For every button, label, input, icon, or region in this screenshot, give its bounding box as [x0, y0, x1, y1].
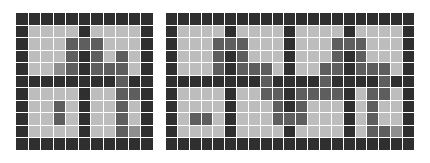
grid-cell-wall[interactable]: [379, 138, 390, 150]
grid-cell-wall[interactable]: [225, 26, 236, 38]
grid-cell-wall[interactable]: [190, 76, 201, 88]
grid-cell-wall[interactable]: [190, 13, 201, 25]
grid-cell-wall[interactable]: [296, 76, 307, 88]
grid-cell-wall[interactable]: [166, 38, 177, 50]
grid-cell-path[interactable]: [367, 113, 378, 125]
grid-cell-floor[interactable]: [391, 113, 402, 125]
grid-cell-wall[interactable]: [202, 138, 213, 150]
grid-cell-floor[interactable]: [104, 101, 116, 113]
grid-cell-floor[interactable]: [116, 26, 128, 38]
grid-cell-floor[interactable]: [202, 101, 213, 113]
grid-cell-wall[interactable]: [403, 101, 414, 113]
grid-cell-floor[interactable]: [261, 113, 272, 125]
grid-cell-wall[interactable]: [225, 126, 236, 138]
grid-cell-wall[interactable]: [16, 26, 28, 38]
grid-cell-floor[interactable]: [249, 101, 260, 113]
grid-cell-floor[interactable]: [379, 101, 390, 113]
grid-cell-floor[interactable]: [202, 26, 213, 38]
grid-cell-wall[interactable]: [273, 13, 284, 25]
grid-cell-floor[interactable]: [367, 38, 378, 50]
grid-cell-wall[interactable]: [29, 138, 41, 150]
grid-cell-wall[interactable]: [344, 126, 355, 138]
grid-cell-wall[interactable]: [79, 88, 91, 100]
grid-cell-path[interactable]: [356, 63, 367, 75]
grid-cell-floor[interactable]: [213, 101, 224, 113]
grid-cell-floor[interactable]: [202, 63, 213, 75]
grid-cell-wall[interactable]: [249, 76, 260, 88]
grid-cell-path[interactable]: [116, 51, 128, 63]
grid-cell-wall[interactable]: [141, 126, 153, 138]
grid-cell-wall[interactable]: [129, 138, 141, 150]
grid-cell-wall[interactable]: [273, 138, 284, 150]
grid-cell-floor[interactable]: [261, 51, 272, 63]
grid-cell-wall[interactable]: [261, 13, 272, 25]
grid-cell-wall[interactable]: [178, 13, 189, 25]
grid-cell-wall[interactable]: [66, 13, 78, 25]
grid-cell-wall[interactable]: [367, 13, 378, 25]
grid-cell-wall[interactable]: [344, 113, 355, 125]
grid-cell-floor[interactable]: [41, 113, 53, 125]
grid-cell-path[interactable]: [332, 38, 343, 50]
grid-cell-floor[interactable]: [190, 88, 201, 100]
grid-cell-wall[interactable]: [202, 13, 213, 25]
grid-cell-wall[interactable]: [344, 51, 355, 63]
grid-cell-floor[interactable]: [391, 38, 402, 50]
grid-cell-wall[interactable]: [225, 138, 236, 150]
grid-cell-wall[interactable]: [104, 76, 116, 88]
grid-cell-wall[interactable]: [320, 138, 331, 150]
grid-cell-path[interactable]: [213, 51, 224, 63]
grid-cell-wall[interactable]: [367, 76, 378, 88]
grid-cell-wall[interactable]: [129, 76, 141, 88]
grid-cell-floor[interactable]: [356, 88, 367, 100]
grid-cell-path[interactable]: [332, 51, 343, 63]
grid-cell-floor[interactable]: [178, 51, 189, 63]
grid-cell-floor[interactable]: [178, 88, 189, 100]
grid-cell-path[interactable]: [116, 63, 128, 75]
grid-cell-path[interactable]: [225, 38, 236, 50]
grid-cell-wall[interactable]: [79, 26, 91, 38]
grid-cell-wall[interactable]: [296, 138, 307, 150]
grid-cell-floor[interactable]: [91, 126, 103, 138]
grid-cell-floor[interactable]: [308, 51, 319, 63]
grid-cell-wall[interactable]: [16, 126, 28, 138]
grid-cell-path[interactable]: [379, 76, 390, 88]
grid-cell-path[interactable]: [332, 88, 343, 100]
grid-cell-path[interactable]: [91, 51, 103, 63]
grid-cell-floor[interactable]: [178, 63, 189, 75]
grid-cell-path[interactable]: [116, 113, 128, 125]
grid-cell-wall[interactable]: [213, 138, 224, 150]
grid-cell-wall[interactable]: [141, 26, 153, 38]
grid-cell-wall[interactable]: [344, 13, 355, 25]
grid-cell-floor[interactable]: [367, 26, 378, 38]
grid-cell-wall[interactable]: [296, 13, 307, 25]
grid-cell-floor[interactable]: [190, 126, 201, 138]
grid-cell-path[interactable]: [296, 101, 307, 113]
grid-cell-floor[interactable]: [29, 38, 41, 50]
grid-cell-wall[interactable]: [141, 88, 153, 100]
grid-cell-wall[interactable]: [213, 13, 224, 25]
grid-cell-floor[interactable]: [178, 26, 189, 38]
grid-cell-path[interactable]: [367, 63, 378, 75]
grid-cell-wall[interactable]: [261, 138, 272, 150]
grid-cell-wall[interactable]: [225, 51, 236, 63]
grid-cell-floor[interactable]: [29, 113, 41, 125]
grid-cell-floor[interactable]: [261, 26, 272, 38]
grid-cell-wall[interactable]: [79, 101, 91, 113]
grid-cell-floor[interactable]: [202, 126, 213, 138]
grid-cell-floor[interactable]: [308, 26, 319, 38]
grid-cell-floor[interactable]: [391, 51, 402, 63]
grid-cell-wall[interactable]: [141, 63, 153, 75]
grid-cell-floor[interactable]: [54, 26, 66, 38]
grid-cell-wall[interactable]: [284, 38, 295, 50]
grid-cell-wall[interactable]: [29, 76, 41, 88]
grid-cell-wall[interactable]: [356, 76, 367, 88]
grid-cell-path[interactable]: [273, 88, 284, 100]
grid-cell-path[interactable]: [344, 38, 355, 50]
grid-cell-path[interactable]: [320, 76, 331, 88]
grid-cell-path[interactable]: [129, 88, 141, 100]
grid-cell-floor[interactable]: [320, 126, 331, 138]
grid-cell-floor[interactable]: [261, 101, 272, 113]
grid-cell-floor[interactable]: [178, 38, 189, 50]
grid-cell-floor[interactable]: [29, 101, 41, 113]
grid-cell-path-light[interactable]: [54, 63, 66, 75]
